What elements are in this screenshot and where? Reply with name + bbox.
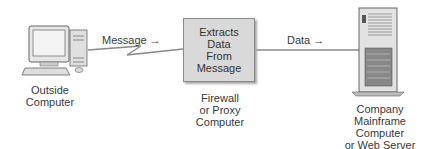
firewall-process-box: Extracts Data From Message xyxy=(183,18,255,82)
box-line-1: Extracts xyxy=(197,26,242,38)
message-connection-line xyxy=(88,46,183,55)
server-label: Company Mainframe Computer or Web Server xyxy=(340,103,420,149)
box-line-3: From xyxy=(197,50,242,62)
firewall-label-line-2: or Proxy xyxy=(185,104,255,116)
box-line-4: Message xyxy=(197,62,242,74)
message-label-text: Message xyxy=(102,34,147,46)
server-icon xyxy=(352,8,404,96)
firewall-label-line-3: Computer xyxy=(185,116,255,128)
arrow-right-icon: → xyxy=(150,34,161,46)
outside-computer-label-text: Outside Computer xyxy=(26,84,74,108)
server-label-line-4: or Web Server xyxy=(340,139,420,149)
firewall-label: Firewall or Proxy Computer xyxy=(185,92,255,128)
outside-computer-icon xyxy=(22,26,87,75)
outside-computer-label: Outside Computer xyxy=(20,84,80,108)
data-label: Data → xyxy=(287,34,324,46)
server-label-line-1: Company xyxy=(340,103,420,115)
data-label-text: Data xyxy=(287,34,310,46)
firewall-label-line-1: Firewall xyxy=(185,92,255,104)
server-label-line-3: Computer xyxy=(340,127,420,139)
message-label: Message → xyxy=(102,34,161,46)
arrow-right-icon: → xyxy=(313,34,324,46)
box-line-2: Data xyxy=(197,38,242,50)
firewall-process-text: Extracts Data From Message xyxy=(197,26,242,74)
server-label-line-2: Mainframe xyxy=(340,115,420,127)
